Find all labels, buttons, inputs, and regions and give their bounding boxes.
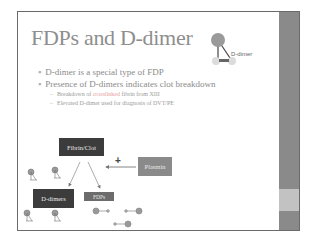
plasmin-box: Plasmin <box>138 157 172 176</box>
d-dimers-box: D-dimers <box>33 189 74 208</box>
fdps-box: FDPs <box>84 192 114 201</box>
fibrin-clot-box: Fibrin/Clot <box>59 138 104 156</box>
plus-icon: + <box>115 155 121 166</box>
slide: FDPs and D-dimer D-dimer ▪D-dimer is a s… <box>17 11 300 231</box>
